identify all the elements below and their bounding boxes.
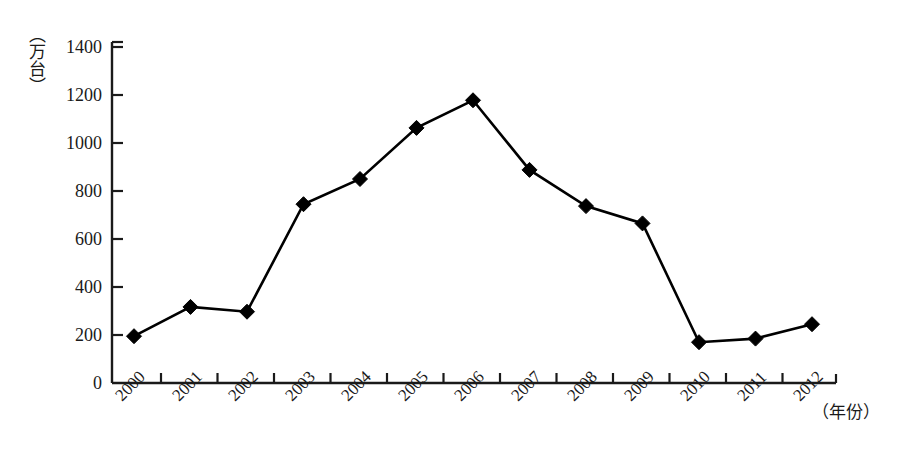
line-chart: （万台） 0200400600800100012001400 200020012… bbox=[0, 0, 914, 455]
data-point-marker bbox=[692, 335, 707, 350]
data-point-marker bbox=[635, 216, 650, 231]
data-point-marker bbox=[579, 199, 594, 214]
data-point-marker bbox=[296, 197, 311, 212]
data-point-marker bbox=[183, 299, 198, 314]
x-axis-unit-label: （年份） bbox=[812, 398, 880, 423]
data-series-line bbox=[134, 100, 812, 342]
data-point-marker bbox=[748, 331, 763, 346]
y-axis-ticks bbox=[112, 47, 123, 335]
data-point-marker bbox=[127, 329, 142, 344]
data-point-marker bbox=[805, 317, 820, 332]
data-point-marker bbox=[240, 304, 255, 319]
